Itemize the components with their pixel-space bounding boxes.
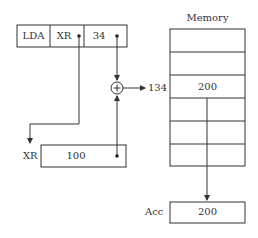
effective-address-label: 134 bbox=[148, 82, 167, 94]
index-register-value: 100 bbox=[41, 150, 111, 162]
index-register-label: XR bbox=[23, 150, 38, 162]
memory-cell-value: 200 bbox=[170, 81, 245, 93]
memory-title: Memory bbox=[170, 12, 245, 24]
adder-icon bbox=[111, 82, 123, 94]
accumulator-value: 200 bbox=[170, 206, 245, 218]
register-select-arrow bbox=[30, 36, 79, 143]
offset-field-label: 34 bbox=[86, 30, 112, 42]
register-field-label: XR bbox=[52, 30, 76, 42]
opcode-label: LDA bbox=[17, 30, 50, 42]
accumulator-label: Acc bbox=[145, 206, 163, 218]
index-value-dot bbox=[115, 154, 119, 158]
